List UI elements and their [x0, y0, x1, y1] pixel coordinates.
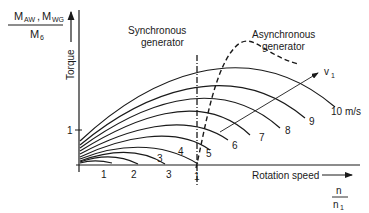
y-axis-fraction-label: M AW , M WG M 6 [8, 10, 64, 41]
ylabel-num-sep: , [37, 10, 40, 22]
ylabel-num-sub2: WG [52, 16, 64, 23]
sync-label-line2: generator [141, 37, 184, 48]
xlabel-fraction-den-main: n [333, 199, 339, 210]
arrow-label-main: v [324, 66, 329, 77]
curve-label-7: 7 [259, 132, 265, 143]
ylabel-torque: Torque [65, 49, 76, 80]
curve-label-6: 6 [232, 140, 238, 151]
curve-v1 [80, 161, 112, 163]
xlabel-fraction-den-sub: 1 [340, 204, 344, 211]
curve-label-1: 1 [101, 169, 107, 180]
xlabel-rotation-speed: Rotation speed [252, 170, 319, 181]
curve-label-4: 4 [178, 146, 184, 157]
curve-label-3-bottom: 3 [166, 169, 172, 180]
curve-label-9: 9 [309, 116, 315, 127]
ylabel-den-main: M [30, 28, 39, 40]
arrow-label-sub: 1 [331, 72, 335, 79]
curve-label-2: 2 [131, 169, 137, 180]
y-tick-label-1: 1 [67, 125, 73, 136]
curve-v9 [80, 86, 305, 145]
ylabel-num-sub1: AW [24, 16, 35, 23]
xlabel-fraction-num: n [336, 185, 342, 196]
x-tick-label-1: 1 [194, 171, 200, 182]
torque-speed-diagram: M AW , M WG M 6 Torque 1 1 Synchronous g… [0, 0, 369, 213]
curve-label-10: 10 m/s [331, 106, 361, 117]
async-label-line2: generator [262, 41, 305, 52]
curve-label-5: 5 [206, 148, 212, 159]
curve-label-8: 8 [285, 125, 291, 136]
async-label-line1: Asynchronous [252, 29, 315, 40]
sync-label-line1: Synchronous [128, 25, 186, 36]
ylabel-num-main2: M [42, 10, 51, 22]
ylabel-den-sub: 6 [40, 34, 44, 41]
ylabel-num-main1: M [14, 10, 23, 22]
curve-label-3: 3 [157, 153, 163, 164]
